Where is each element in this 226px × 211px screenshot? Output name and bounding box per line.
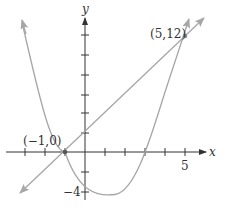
point-label-5-12: (5,12) bbox=[150, 27, 186, 41]
graph-canvas: x 5 y −4 (−1,0) (5,12) bbox=[0, 0, 226, 211]
y-axis-label: y bbox=[81, 2, 89, 16]
x-axis: x 5 bbox=[6, 145, 216, 173]
parabola-series bbox=[22, 19, 189, 195]
x-axis-label: x bbox=[209, 145, 216, 159]
point-label-neg1-0: (−1,0) bbox=[23, 134, 62, 148]
y-tick-label-neg4: −4 bbox=[63, 185, 81, 199]
y-axis: y −4 bbox=[63, 2, 89, 200]
x-tick-label-5: 5 bbox=[181, 159, 189, 173]
point-neg1-0 bbox=[63, 150, 68, 155]
